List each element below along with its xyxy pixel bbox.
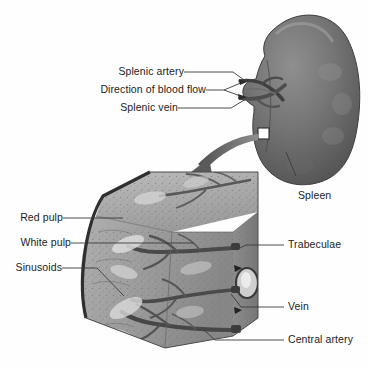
magnification-arrow	[186, 134, 258, 176]
spleen-organ	[243, 15, 360, 185]
leader-splenic-vein	[178, 99, 246, 108]
spleen-lobule-1	[318, 63, 342, 81]
label-direction-of-blood-flow: Direction of blood flow	[36, 84, 206, 95]
vein-lumen	[241, 272, 251, 288]
label-red-pulp: Red pulp	[3, 212, 63, 223]
splenic-tissue-cutaway-block	[80, 170, 261, 352]
spleen-lobule-4	[286, 158, 314, 174]
spleen-lobule-3	[322, 127, 344, 145]
label-trabeculae: Trabeculae	[288, 239, 341, 250]
leader-splenic-artery	[184, 72, 247, 82]
label-spleen: Spleen	[298, 190, 331, 201]
label-vein: Vein	[288, 301, 309, 312]
leader-blood-flow-upper	[206, 82, 243, 90]
label-central-artery: Central artery	[288, 334, 353, 345]
sample-region-box	[258, 128, 269, 139]
block-front-texture	[80, 228, 238, 352]
label-splenic-vein: Splenic vein	[78, 102, 178, 113]
spleen-anatomy-figure: Splenic artery Direction of blood flow S…	[0, 0, 368, 368]
cut-vessel-middle	[231, 286, 240, 293]
label-sinusoids: Sinusoids	[3, 262, 62, 273]
label-splenic-artery: Splenic artery	[74, 66, 184, 77]
figure-canvas	[0, 0, 368, 368]
spleen-lobule-2	[332, 93, 352, 115]
label-white-pulp: White pulp	[3, 237, 71, 248]
